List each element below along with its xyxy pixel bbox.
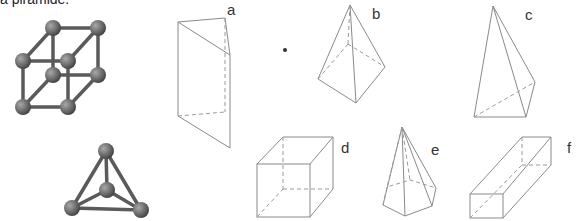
geometry-diagram: a b c d — [0, 0, 577, 221]
atom — [64, 200, 80, 216]
figure-a-triangular-prism: a — [178, 1, 236, 148]
label-c: c — [525, 6, 533, 23]
atom — [45, 67, 61, 83]
label-d: d — [341, 139, 349, 156]
atom — [90, 67, 106, 83]
atom — [90, 20, 106, 36]
figure-f-rectangular-prism: f — [470, 137, 572, 218]
label-b: b — [372, 5, 380, 22]
atom — [98, 143, 114, 159]
figure-b-triangular-pyramid: b — [318, 5, 385, 103]
label-e: e — [431, 141, 439, 158]
atom — [45, 20, 61, 36]
atom — [60, 99, 76, 115]
atom — [15, 53, 31, 69]
figure-c-triangular-pyramid: c — [474, 6, 535, 117]
figure-d-cube: d — [257, 137, 349, 217]
atom — [60, 53, 76, 69]
figure-e-pentagonal-pyramid: e — [383, 127, 439, 216]
dot-mark — [283, 48, 287, 52]
label-a: a — [227, 1, 236, 18]
atom — [99, 182, 115, 198]
atom — [15, 99, 31, 115]
atom — [133, 202, 149, 218]
label-f: f — [567, 139, 572, 156]
tetrahedral-molecule-model — [64, 143, 149, 218]
cubic-molecule-model — [15, 20, 106, 115]
